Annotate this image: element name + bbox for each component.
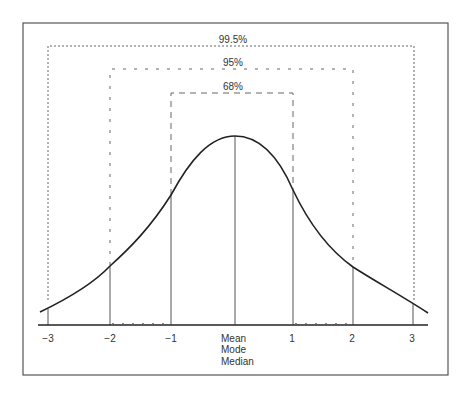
tick-label-mean: Mean — [221, 333, 246, 344]
normal-distribution-figure: 99.5% 95% 68% −3 −2 −1 Mean Mode Median … — [0, 0, 472, 394]
sd-vertical-lines — [48, 136, 413, 325]
tick-label-median: Median — [221, 356, 254, 367]
tick-label-neg1: −1 — [165, 333, 177, 344]
tick-label-3: 3 — [409, 333, 415, 344]
tick-label-neg3: −3 — [42, 333, 54, 344]
tick-label-neg2: −2 — [104, 333, 116, 344]
interval-label-99-5: 99.5% — [219, 34, 247, 45]
tick-label-mode: Mode — [221, 344, 246, 355]
interval-label-95: 95% — [223, 57, 243, 68]
bell-curve — [40, 136, 428, 313]
tick-label-1: 1 — [289, 333, 295, 344]
interval-bracket-95 — [110, 69, 353, 266]
interval-bracket-68 — [171, 93, 293, 195]
interval-label-68: 68% — [223, 81, 243, 92]
tick-label-2: 2 — [349, 333, 355, 344]
